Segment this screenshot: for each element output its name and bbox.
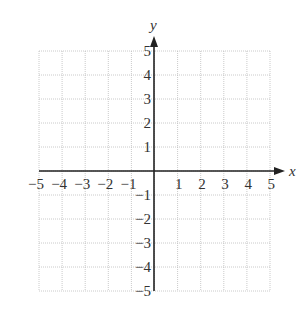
x-tick-label: 3 (221, 176, 229, 192)
y-tick-label: −5 (135, 283, 151, 299)
y-axis-arrow-icon (150, 36, 158, 47)
y-tick-label: −3 (135, 235, 151, 251)
x-tick-label: −3 (74, 176, 90, 192)
axes (39, 36, 285, 291)
x-tick-label: 4 (244, 176, 252, 192)
y-tick-label: 1 (144, 139, 152, 155)
y-tick-label: −4 (135, 259, 151, 275)
x-axis-label: x (288, 163, 296, 179)
y-tick-label: 2 (144, 115, 152, 131)
x-tick-label: 1 (175, 176, 183, 192)
x-tick-label: 5 (268, 176, 276, 192)
x-tick-labels: −5−4−3−2−112345 (28, 176, 275, 192)
x-tick-label: −4 (51, 176, 67, 192)
y-tick-label: −1 (135, 187, 151, 203)
coordinate-plane: x y −5−4−3−2−112345 −5−4−3−2−112345 (0, 0, 308, 313)
x-axis-arrow-icon (274, 167, 285, 175)
x-tick-label: −2 (97, 176, 113, 192)
y-tick-label: 4 (144, 67, 152, 83)
x-tick-label: 2 (198, 176, 206, 192)
y-tick-label: −2 (135, 211, 151, 227)
x-tick-label: −5 (28, 176, 44, 192)
x-tick-label: −1 (120, 176, 136, 192)
y-tick-label: 3 (144, 91, 152, 107)
y-axis-label: y (148, 17, 157, 33)
y-tick-label: 5 (144, 43, 152, 59)
